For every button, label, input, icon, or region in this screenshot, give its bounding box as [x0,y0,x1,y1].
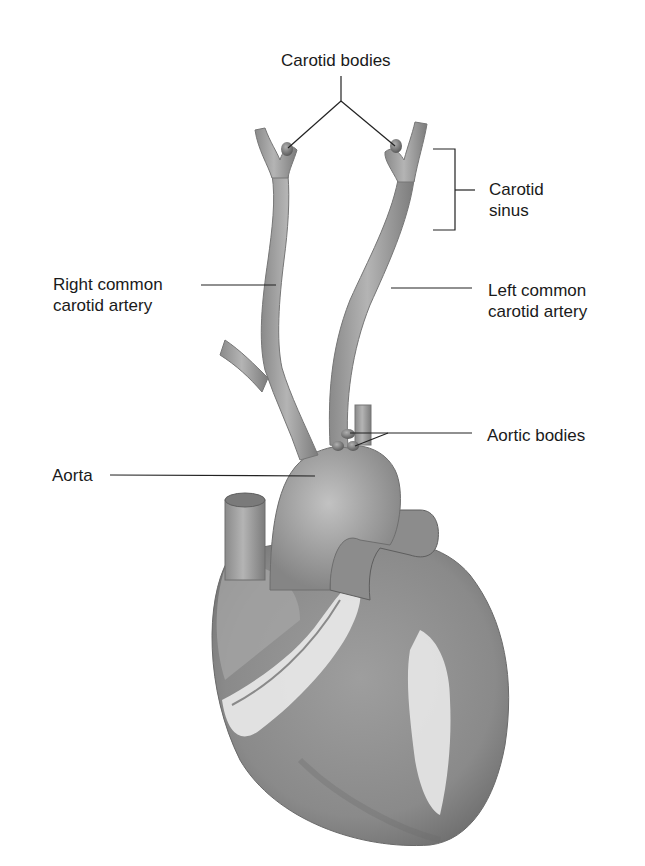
carotid-body-left [390,139,402,153]
left-common-carotid-artery [329,122,427,448]
label-aorta: Aorta [52,465,93,486]
label-right-common-carotid: Right common carotid artery [53,274,163,316]
label-carotid-sinus-line2: sinus [489,200,544,221]
carotid-body-right [281,142,293,156]
label-left-common-carotid-line1: Left common [488,280,587,301]
label-right-common-carotid-line1: Right common [53,274,163,295]
label-left-common-carotid: Left common carotid artery [488,280,587,322]
label-carotid-bodies: Carotid bodies [281,50,391,71]
label-carotid-sinus-line1: Carotid [489,179,544,200]
diagram-stage: Carotid bodies Carotid sinus Right commo… [0,0,645,866]
right-common-carotid-artery [220,128,318,460]
superior-vena-cava [225,493,265,580]
label-left-common-carotid-line2: carotid artery [488,301,587,322]
carotid-bodies [281,139,402,156]
label-carotid-sinus: Carotid sinus [489,179,544,221]
label-right-common-carotid-line2: carotid artery [53,295,163,316]
label-aortic-bodies: Aortic bodies [487,425,585,446]
